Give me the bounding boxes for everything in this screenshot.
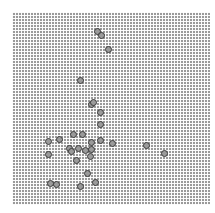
marker-dot (98, 32, 105, 39)
marker-dot (161, 150, 168, 157)
marker-dot (143, 142, 150, 149)
marker-dot (105, 46, 112, 53)
marker-dot (73, 157, 80, 164)
marker-dot (92, 179, 99, 186)
marker-dot (77, 77, 84, 84)
marker-dot (109, 140, 116, 147)
marker-dot (56, 136, 63, 143)
marker-dot (53, 181, 60, 188)
marker-dot (77, 183, 84, 190)
marker-dot (97, 109, 104, 116)
marker-dot (88, 139, 95, 146)
marker-dot (45, 151, 52, 158)
marker-dot (68, 148, 75, 155)
dot-grid-background (12, 12, 210, 205)
marker-dot (84, 170, 91, 177)
marker-dot (70, 131, 77, 138)
marker-dot (87, 153, 94, 160)
marker-dot (88, 146, 95, 153)
marker-dot (97, 121, 104, 128)
marker-dot (90, 99, 97, 106)
marker-dot (45, 138, 52, 145)
marker-dot (79, 131, 86, 138)
marker-dot (97, 137, 104, 144)
marker-dot (75, 145, 82, 152)
